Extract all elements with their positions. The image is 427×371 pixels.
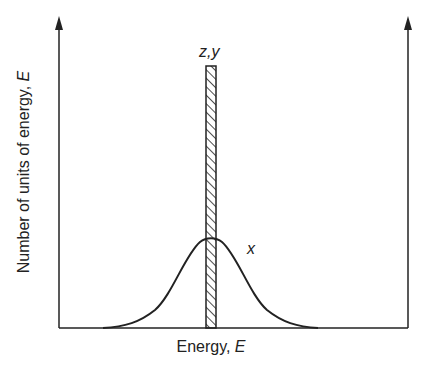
up-arrow-icon — [404, 16, 412, 30]
bar-label: z,y — [199, 43, 219, 61]
y-axis-label-text: Number of units of energy, — [15, 81, 32, 273]
y-axis-label: Number of units of energy, E — [15, 71, 33, 273]
curve-label: x — [247, 240, 255, 258]
up-arrow-icon — [55, 16, 63, 30]
x-axis-label-var: E — [235, 338, 246, 355]
x-axis-label-text: Energy, — [176, 338, 234, 355]
energy-distribution-figure: z,y x Number of units of energy, E Energ… — [0, 0, 427, 371]
y-axis-label-var: E — [15, 71, 32, 82]
right-axis — [404, 16, 412, 328]
x-axis-label: Energy, E — [176, 338, 245, 356]
left-axis — [55, 16, 63, 328]
hatched-bar-zy — [206, 66, 216, 328]
